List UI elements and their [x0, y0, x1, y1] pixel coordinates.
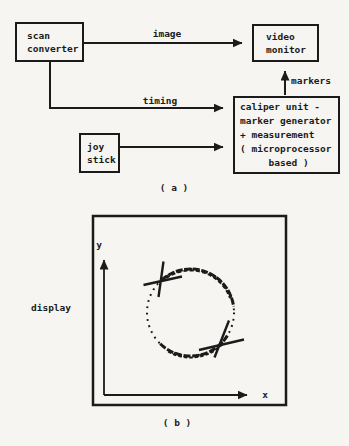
display-frame: [93, 216, 286, 405]
caliper-unit-box: caliper unit - marker generator + measur…: [233, 96, 340, 174]
y-axis-label: y: [96, 239, 102, 250]
contour-top-arc-noise: [166, 270, 230, 298]
image-arrow-label: image: [153, 28, 182, 39]
joy-stick-box: joy stick: [79, 133, 120, 173]
figure-canvas: scan converter video monitor caliper uni…: [0, 0, 349, 446]
scan-converter-box: scan converter: [15, 22, 84, 62]
diagram-lines-layer: [0, 0, 349, 446]
display-label: display: [31, 302, 71, 313]
timing-arrow-label: timing: [143, 95, 177, 106]
timing-line-arrow: [50, 61, 223, 108]
part-b-caption: ( b ): [163, 417, 192, 428]
markers-arrow-label: markers: [291, 75, 331, 86]
video-monitor-box: video monitor: [252, 24, 319, 62]
part-a-caption: ( a ): [160, 182, 189, 193]
x-axis-label: x: [262, 389, 268, 400]
